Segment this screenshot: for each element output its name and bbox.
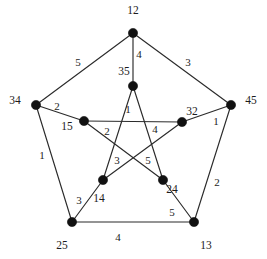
edge-label: 4: [136, 49, 142, 60]
edge-label: 3: [185, 57, 191, 68]
graph-vertex[interactable]: [79, 116, 88, 125]
graph-edge: [133, 33, 231, 105]
graph-edge: [36, 105, 84, 121]
graph-vertex[interactable]: [67, 217, 76, 226]
vertex-label: 32: [186, 106, 198, 118]
edge-label: 2: [54, 101, 60, 112]
graph-edge: [84, 121, 182, 122]
graph-vertex[interactable]: [226, 100, 235, 109]
edge-label: 2: [214, 177, 220, 188]
graph-vertex[interactable]: [98, 175, 107, 184]
edge-label: 3: [114, 155, 120, 166]
graph-vertex[interactable]: [128, 28, 137, 37]
edge-label: 4: [152, 124, 158, 135]
edge-label: 2: [104, 126, 110, 137]
edge-label: 3: [76, 195, 82, 206]
graph-edge: [133, 86, 163, 180]
petersen-graph-figure: 53124421351542312344525133515321424: [0, 0, 267, 259]
edge-label: 1: [213, 116, 219, 127]
graph-edge: [103, 122, 182, 180]
edge-label: 4: [115, 232, 121, 243]
graph-vertex[interactable]: [177, 117, 186, 126]
graph-edge: [84, 121, 163, 180]
vertex-label: 25: [56, 240, 68, 252]
vertex-label: 15: [61, 121, 73, 133]
graph-vertex[interactable]: [31, 100, 40, 109]
graph-vertex[interactable]: [128, 81, 137, 90]
vertex-label: 24: [166, 184, 178, 196]
edge-label: 1: [125, 104, 131, 115]
edge-label: 5: [169, 207, 175, 218]
vertex-label: 12: [127, 5, 139, 17]
edge-label: 5: [75, 57, 81, 68]
vertex-label: 34: [9, 95, 21, 107]
graph-vertex[interactable]: [189, 217, 198, 226]
edge-label: 1: [39, 150, 45, 161]
graph-canvas: [0, 0, 267, 259]
vertex-label: 13: [200, 240, 212, 252]
vertex-label: 35: [118, 66, 130, 78]
vertex-label: 14: [93, 193, 105, 205]
vertex-label: 45: [245, 95, 257, 107]
edge-label: 5: [145, 155, 151, 166]
